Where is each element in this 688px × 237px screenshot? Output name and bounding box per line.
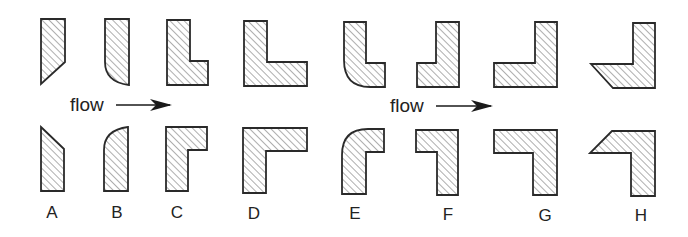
shape-f-bottom — [416, 130, 458, 195]
shape-e-bottom — [342, 129, 384, 194]
shape-d-bottom — [243, 128, 307, 193]
shape-label-b: B — [111, 203, 122, 222]
shape-f-top — [417, 22, 459, 87]
shape-g-top — [494, 22, 557, 87]
shape-b-top — [105, 19, 129, 85]
shape-a-top — [41, 19, 65, 84]
shape-label-h: H — [635, 206, 647, 225]
shape-c-bottom — [166, 127, 207, 191]
shape-d-top — [244, 21, 307, 86]
flow-label: flow — [390, 95, 424, 116]
shape-c-top — [167, 20, 208, 85]
shape-b-bottom — [104, 127, 128, 191]
flow-indicator-left: flow — [70, 94, 170, 115]
flow-shapes-diagram: flow flow A B C D E F G H — [0, 0, 688, 237]
shape-label-f: F — [443, 205, 453, 224]
shape-label-g: G — [538, 206, 551, 225]
shape-label-a: A — [46, 203, 58, 222]
shape-label-d: D — [248, 204, 260, 223]
shape-h-bottom — [590, 131, 655, 196]
flow-indicator-right: flow — [390, 95, 491, 116]
shape-a-bottom — [41, 127, 64, 191]
shape-label-e: E — [349, 204, 360, 223]
shape-e-top — [344, 22, 385, 87]
shape-g-bottom — [494, 130, 557, 195]
flow-label: flow — [70, 94, 104, 115]
shape-label-c: C — [171, 203, 183, 222]
shape-h-top — [591, 23, 655, 88]
